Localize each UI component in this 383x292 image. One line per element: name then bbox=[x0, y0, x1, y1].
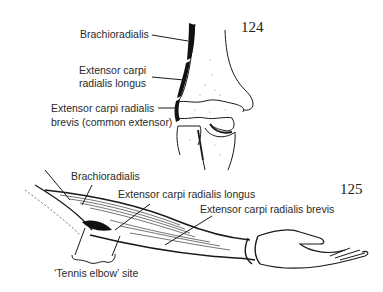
label-ecrb-125: Extensor carpi radialis brevis bbox=[200, 203, 334, 216]
bone-stipple bbox=[190, 60, 226, 156]
label-tennis-elbow: ‘Tennis elbow’ site bbox=[54, 267, 138, 280]
label-brachioradialis-125: Brachioradialis bbox=[71, 170, 140, 183]
label-ecrb-124-line1: Extensor carpi radialis bbox=[51, 102, 154, 115]
tennis-elbow-brace bbox=[72, 254, 115, 263]
muscle-origins bbox=[175, 23, 196, 122]
figure-125-number: 125 bbox=[340, 181, 363, 198]
tennis-elbow-shading bbox=[82, 220, 112, 230]
label-ecrl-124-line2: radialis longus bbox=[79, 77, 146, 90]
figure-124-number: 124 bbox=[241, 19, 264, 36]
label-ecrl-125: Extensor carpi radialis longus bbox=[118, 188, 255, 201]
label-brachioradialis-124: Brachioradialis bbox=[80, 28, 149, 41]
forearm-figure bbox=[25, 170, 368, 268]
label-ecrl-124-line1: Extensor carpi bbox=[79, 64, 146, 77]
elbow-bone-figure bbox=[176, 24, 253, 170]
label-ecrb-124-line2: brevis (common extensor) bbox=[51, 116, 172, 129]
anatomy-illustration bbox=[0, 0, 383, 292]
leader-lines-124 bbox=[152, 35, 188, 108]
